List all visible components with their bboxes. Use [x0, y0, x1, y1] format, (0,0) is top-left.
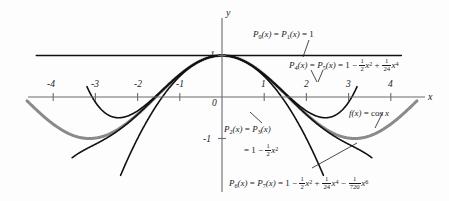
x-tick-label--1: -1 [176, 80, 184, 90]
leader-line-p0 [303, 40, 309, 57]
p4-frac-24: 124 [382, 58, 391, 73]
taylor-polynomial-figure: -4 -3 -2 -1 1 2 3 4 1 0 -1 y x P0(x) = P… [0, 0, 449, 201]
y-tick-label--1: -1 [203, 135, 211, 145]
x-tick-label-1: 1 [261, 80, 266, 90]
p6-frac-half: 12 [299, 176, 304, 191]
p4-frac-half: 12 [359, 58, 364, 73]
leader-line-p6 [312, 143, 357, 168]
y-tick-label-1: 1 [210, 51, 215, 61]
x-tick-label--3: -3 [91, 80, 99, 90]
label-p6-p7: P6(x) = P7(x) = 1 − 12x2 + 124x4 − 1720x… [229, 176, 368, 191]
x-tick-label--2: -2 [134, 80, 142, 90]
label-p2-p3-line1: P2(x) = P3(x) [224, 125, 271, 135]
p6-frac-720: 1720 [349, 176, 361, 191]
origin-label: 0 [212, 99, 217, 109]
x-tick-label--4: -4 [47, 80, 55, 90]
label-f-cos: f(x) = cos x [349, 109, 389, 118]
x-tick-label-4: 4 [388, 80, 393, 90]
p2-frac-half: 12 [265, 143, 270, 158]
x-tick-label-3: 3 [346, 80, 351, 90]
y-axis-label: y [226, 8, 230, 18]
label-p4-p5: P4(x) = P5(x) = 1 − 12x2 + 124x4 [289, 58, 399, 73]
x-axis-label: x [428, 92, 432, 102]
plot-canvas [0, 0, 449, 201]
leader-line-p2 [250, 112, 262, 123]
label-p0-p1: P0(x) = P1(x) = 1 [253, 30, 314, 40]
p6-frac-24: 124 [322, 176, 331, 191]
label-p2-p3-line2: = 1 − 12x2 [244, 143, 278, 158]
x-tick-label-2: 2 [304, 80, 309, 90]
